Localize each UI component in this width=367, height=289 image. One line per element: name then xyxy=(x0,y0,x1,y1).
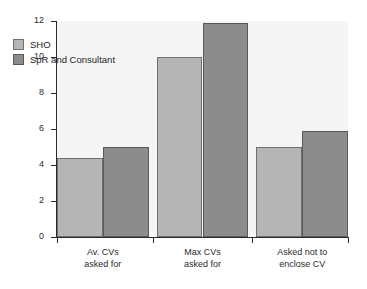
y-tick-mark xyxy=(51,237,56,238)
bar-sho-group-1 xyxy=(57,158,103,237)
legend-item-spr-and-consultant: SpR and Consultant xyxy=(13,54,115,65)
legend-item-sho: SHO xyxy=(13,39,115,50)
x-tick-mark xyxy=(348,238,349,243)
x-axis-line xyxy=(56,237,349,238)
y-tick-label: 4 xyxy=(20,160,44,169)
y-tick-mark xyxy=(51,129,56,130)
category-label-line: Av. CVs xyxy=(57,246,149,258)
y-tick-mark xyxy=(51,21,56,22)
category-label-line: Asked not to xyxy=(256,246,348,258)
category-label-line: asked for xyxy=(157,258,249,270)
x-tick-mark xyxy=(252,238,253,243)
category-label-line: Max CVs xyxy=(157,246,249,258)
category-label-3: Asked not toenclose CV xyxy=(256,246,348,270)
y-tick-label: 8 xyxy=(20,88,44,97)
bar-spr-group-2 xyxy=(203,23,249,237)
legend-label-spr-and-consultant: SpR and Consultant xyxy=(30,54,115,65)
y-tick-label: 2 xyxy=(20,196,44,205)
x-tick-mark xyxy=(153,238,154,243)
bar-chart: 024681012 Av. CVsasked forMax CVsasked f… xyxy=(0,0,367,289)
y-tick-label: 0 xyxy=(20,232,44,241)
bar-spr-group-3 xyxy=(302,131,348,237)
legend-swatch-icon-spr-and-consultant xyxy=(13,54,24,65)
category-label-1: Av. CVsasked for xyxy=(57,246,149,270)
legend-swatch-icon-sho xyxy=(13,39,24,50)
y-tick-mark xyxy=(51,201,56,202)
x-tick-mark xyxy=(57,238,58,243)
chart-legend: SHO SpR and Consultant xyxy=(13,39,115,69)
bar-spr-group-1 xyxy=(103,147,149,237)
category-label-line: asked for xyxy=(57,258,149,270)
y-tick-label: 12 xyxy=(20,16,44,25)
category-label-2: Max CVsasked for xyxy=(157,246,249,270)
y-tick-label: 6 xyxy=(20,124,44,133)
bar-sho-group-2 xyxy=(157,57,203,237)
y-tick-mark xyxy=(51,93,56,94)
bar-sho-group-3 xyxy=(256,147,302,237)
legend-label-sho: SHO xyxy=(30,39,51,50)
category-label-line: enclose CV xyxy=(256,258,348,270)
y-tick-mark xyxy=(51,165,56,166)
